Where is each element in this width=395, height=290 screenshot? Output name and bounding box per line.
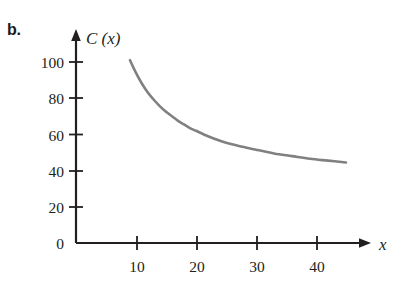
- y-tick-label-60: 60: [49, 127, 65, 144]
- y-tick-label-20: 20: [49, 199, 65, 216]
- y-tick-label-100: 100: [41, 54, 65, 71]
- x-axis-tick-labels: 10 20 30 40: [129, 258, 325, 275]
- y-tick-label-40: 40: [49, 163, 65, 180]
- figure-panel: b. 100 80 60: [0, 0, 395, 290]
- x-axis: [76, 238, 371, 248]
- x-tick-label-10: 10: [129, 258, 145, 275]
- data-curve: [130, 60, 346, 162]
- y-axis-arrowhead: [71, 29, 81, 41]
- y-tick-label-0: 0: [56, 235, 64, 252]
- y-tick-label-80: 80: [49, 90, 65, 107]
- y-axis-tick-labels: 100 80 60 40 20 0: [41, 54, 65, 252]
- x-tick-label-40: 40: [309, 258, 325, 275]
- x-axis-label: x: [378, 235, 387, 254]
- x-tick-label-30: 30: [249, 258, 265, 275]
- chart-plot: 100 80 60 40 20 0 10 20 30 40 C (x) x: [0, 0, 395, 290]
- x-tick-label-20: 20: [189, 258, 205, 275]
- x-axis-arrowhead: [359, 238, 371, 248]
- y-axis-label: C (x): [86, 29, 121, 48]
